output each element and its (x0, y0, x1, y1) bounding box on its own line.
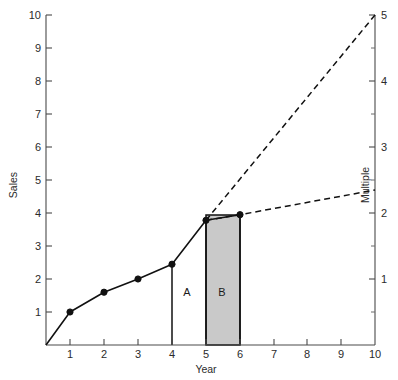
y2-tick-label-4: 4 (381, 75, 387, 87)
y-tick-label-7: 7 (35, 108, 41, 120)
steep-projection-line (206, 15, 375, 220)
y-tick-label-8: 8 (35, 75, 41, 87)
data-point-year-2 (101, 289, 107, 295)
y2-tick-label-1: 1 (381, 273, 387, 285)
data-point-year-1 (67, 309, 73, 315)
data-point-year-6 (237, 212, 243, 218)
shaded-region-b (206, 215, 240, 345)
x-tick-label-5: 5 (203, 348, 209, 360)
x-tick-label-6: 6 (237, 348, 243, 360)
data-point-year-5 (203, 217, 209, 223)
y-tick-label-4: 4 (35, 207, 41, 219)
region-label-b: B (218, 286, 225, 298)
y-tick-label-5: 5 (35, 174, 41, 186)
x-tick-label-10: 10 (369, 348, 381, 360)
x-tick-label-3: 3 (135, 348, 141, 360)
sales-multiple-chart: 10 9 8 7 6 5 4 3 2 1 Sales 1 (0, 0, 398, 380)
data-point-year-3 (135, 276, 141, 282)
y2-tick-label-3: 3 (381, 141, 387, 153)
y-tick-label-3: 3 (35, 240, 41, 252)
x-tick-label-8: 8 (304, 348, 310, 360)
y2-tick-label-2: 2 (381, 207, 387, 219)
x-tick-label-4: 4 (169, 348, 175, 360)
y-axis-title: Sales (7, 172, 19, 198)
left-axis (46, 15, 52, 345)
chart-container: 10 9 8 7 6 5 4 3 2 1 Sales 1 (0, 0, 398, 380)
x-tick-label-7: 7 (271, 348, 277, 360)
y-tick-label-10: 10 (29, 9, 41, 21)
left-axis-tick-labels: 10 9 8 7 6 5 4 3 2 1 (29, 9, 41, 318)
y-tick-label-2: 2 (35, 273, 41, 285)
data-point-year-4 (169, 261, 175, 267)
y-tick-label-6: 6 (35, 141, 41, 153)
x-axis-tick-labels: 1 2 3 4 5 6 7 8 9 10 (67, 348, 381, 360)
y-tick-label-1: 1 (35, 306, 41, 318)
x-tick-label-1: 1 (67, 348, 73, 360)
x-axis-title: Year (195, 363, 217, 375)
y2-axis-title: Multiple (359, 167, 371, 203)
projection-lines (206, 15, 375, 220)
y2-tick-label-5: 5 (381, 9, 387, 21)
right-axis-tick-labels: 5 4 3 2 1 (381, 9, 387, 285)
region-label-a: A (183, 286, 191, 298)
x-tick-label-2: 2 (101, 348, 107, 360)
y-tick-label-9: 9 (35, 42, 41, 54)
x-tick-label-9: 9 (338, 348, 344, 360)
